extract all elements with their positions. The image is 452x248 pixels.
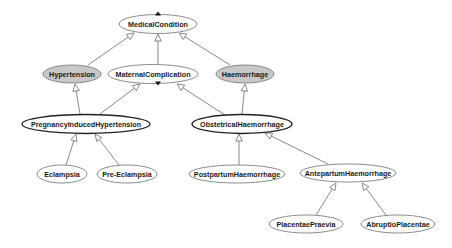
edge-haemorrhage-to-medical-condition [179, 33, 230, 65]
hollow-arrowhead-icon [177, 84, 185, 90]
node-placentae-praevia[interactable]: PlacentaePraevia [269, 215, 343, 233]
hollow-arrowhead-icon [71, 134, 77, 142]
node-obstetrical-haemorrhage[interactable]: ObstetricalHaemorrhage [192, 115, 292, 134]
node-label: PostpartumHaemorrhage [194, 170, 280, 179]
node-pre-eclampsia[interactable]: Pre-Eclampsia [97, 165, 157, 183]
edge-line [271, 136, 328, 164]
edge-pregnancy-induced-hypertension-to-hypertension [73, 84, 80, 114]
node-label: Hypertension [49, 70, 95, 79]
node-label: PlacentaePraevia [276, 220, 336, 229]
edge-obstetrical-haemorrhage-to-maternal-complication [177, 84, 225, 115]
hollow-arrowhead-icon [362, 183, 369, 191]
edge-abruptio-placentae-to-antepartum-haemorrhage [362, 183, 386, 215]
node-label: AbruptioPlacentae [366, 220, 430, 229]
edge-eclampsia-to-pregnancy-induced-hypertension [66, 134, 77, 165]
edge-line [66, 141, 74, 165]
node-label: AntepartumHaemorrhage [305, 169, 392, 178]
hollow-arrowhead-icon [265, 133, 273, 139]
edge-line [100, 88, 134, 114]
hollow-arrowhead-icon [179, 33, 187, 39]
edge-placentae-praevia-to-antepartum-haemorrhage [316, 183, 336, 215]
node-haemorrhage[interactable]: Haemorrhage [216, 65, 274, 83]
edge-line [242, 91, 244, 114]
hollow-arrowhead-icon [241, 84, 247, 91]
node-eclampsia[interactable]: Eclampsia [37, 165, 87, 183]
edge-line [88, 37, 128, 65]
node-maternal-complication[interactable]: MaternalComplication [108, 65, 198, 86]
edge-hypertension-to-medical-condition [88, 33, 134, 65]
edge-line [185, 37, 230, 65]
node-label: PregnancyInducedHypertension [31, 120, 141, 129]
edge-pre-eclampsia-to-pregnancy-induced-hypertension [95, 134, 119, 165]
edge-line [366, 189, 386, 215]
hollow-arrowhead-icon [236, 134, 242, 141]
hollow-arrowhead-icon [155, 34, 161, 41]
node-label: Pre-Eclampsia [102, 170, 153, 179]
node-label: Haemorrhage [222, 70, 268, 79]
node-label: Eclampsia [44, 170, 81, 179]
edge-antepartum-haemorrhage-to-obstetrical-haemorrhage [265, 133, 328, 164]
nodes-layer: MedicalConditionHypertensionMaternalComp… [22, 12, 435, 234]
hollow-arrowhead-icon [126, 33, 134, 40]
node-medical-condition[interactable]: MedicalCondition [119, 12, 197, 34]
class-hierarchy-diagram: MedicalConditionHypertensionMaternalComp… [0, 0, 452, 248]
node-postpartum-haemorrhage[interactable]: PostpartumHaemorrhage [189, 165, 285, 183]
hollow-arrowhead-icon [132, 84, 140, 91]
hollow-arrowhead-icon [73, 84, 79, 91]
edge-pregnancy-induced-hypertension-to-maternal-complication [100, 84, 140, 114]
edge-postpartum-haemorrhage-to-obstetrical-haemorrhage [236, 134, 242, 165]
edge-obstetrical-haemorrhage-to-haemorrhage [241, 84, 247, 114]
collapse-up-icon[interactable] [155, 12, 161, 16]
node-pregnancy-induced-hypertension[interactable]: PregnancyInducedHypertension [22, 115, 150, 134]
node-label: ObstetricalHaemorrhage [200, 120, 284, 129]
node-hypertension[interactable]: Hypertension [43, 65, 101, 83]
node-label: MedicalCondition [128, 20, 188, 29]
hollow-arrowhead-icon [95, 134, 102, 141]
node-antepartum-haemorrhage[interactable]: AntepartumHaemorrhage [300, 164, 396, 182]
hollow-arrowhead-icon [330, 183, 336, 191]
edge-line [316, 189, 332, 215]
edge-maternal-complication-to-medical-condition [155, 34, 161, 64]
edge-line [76, 91, 80, 114]
edge-line [183, 88, 225, 115]
node-label: MaternalComplication [115, 70, 190, 79]
edge-line [99, 140, 119, 165]
node-abruptio-placentae[interactable]: AbruptioPlacentae [361, 215, 435, 233]
